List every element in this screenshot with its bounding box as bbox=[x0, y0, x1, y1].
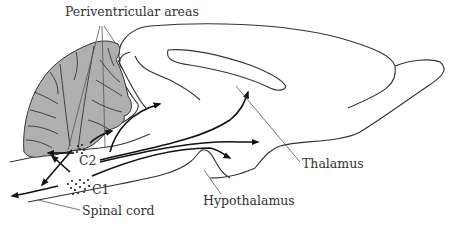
diagram-canvas bbox=[0, 0, 463, 225]
c1-cell-group bbox=[67, 179, 90, 195]
label-c2: C2 bbox=[79, 155, 97, 168]
arrow-c1-caudal bbox=[12, 186, 58, 196]
arrow-to-thalamus bbox=[100, 142, 258, 162]
label-spinal-cord: Spinal cord bbox=[82, 205, 155, 218]
label-thalamus: Thalamus bbox=[302, 158, 364, 171]
label-c1: C1 bbox=[92, 184, 110, 197]
label-hypothalamus: Hypothalamus bbox=[203, 195, 295, 208]
cerebellum bbox=[24, 41, 132, 157]
brain-diagram: Periventricular areas Thalamus Hypothala… bbox=[0, 0, 463, 225]
label-periventricular-areas: Periventricular areas bbox=[65, 6, 199, 19]
